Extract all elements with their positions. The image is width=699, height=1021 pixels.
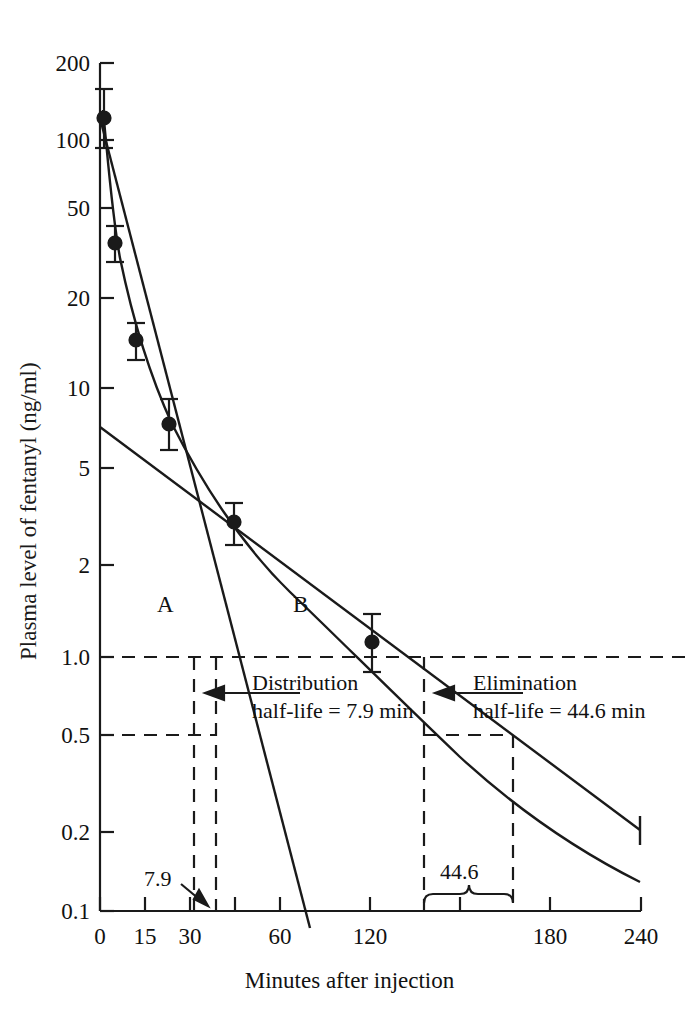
y-tick-label: 20: [22, 286, 90, 312]
line-b: [100, 427, 640, 830]
y-tick-label: 50: [22, 196, 90, 222]
x-tick-label: 60: [260, 924, 300, 950]
x-tick-label: 180: [530, 924, 570, 950]
distribution-annotation-line1: Distribution: [252, 670, 358, 697]
x-tick-label: 30: [170, 924, 210, 950]
data-point: [127, 323, 145, 360]
x-tick-label: 120: [350, 924, 390, 950]
y-axis-title: Plasma level of fentanyl (ng/ml): [16, 362, 42, 660]
x-tick-label: 15: [125, 924, 165, 950]
data-points: [95, 89, 381, 672]
elimination-annotation-line2: half-life = 44.6 min: [473, 698, 645, 725]
data-point: [363, 614, 381, 672]
data-point: [106, 226, 124, 262]
pharmacokinetic-chart: [0, 0, 699, 1021]
curve-label-a: A: [157, 592, 174, 618]
line-a: [101, 122, 310, 928]
x-tick-label: 240: [621, 924, 661, 950]
y-tick-label: 0.5: [22, 723, 90, 749]
y-tick-label: 100: [22, 128, 90, 154]
distribution-interval-label: 7.9: [144, 866, 172, 892]
elimination-interval-label: 44.6: [440, 859, 479, 885]
data-point: [225, 503, 243, 545]
curve-label-b: B: [293, 592, 308, 618]
x-axis-ticks: [100, 897, 641, 911]
fit-curve: [103, 110, 640, 882]
x-tick-label: 0: [80, 924, 120, 950]
y-tick-label: 200: [22, 51, 90, 77]
elimination-interval-brace: [424, 885, 513, 903]
y-tick-label: 0.1: [22, 899, 90, 925]
distribution-annotation-line2: half-life = 7.9 min: [252, 698, 413, 725]
elimination-annotation-line1: Elimination: [473, 670, 577, 697]
y-tick-label: 0.2: [22, 820, 90, 846]
x-axis-title: Minutes after injection: [0, 968, 699, 994]
